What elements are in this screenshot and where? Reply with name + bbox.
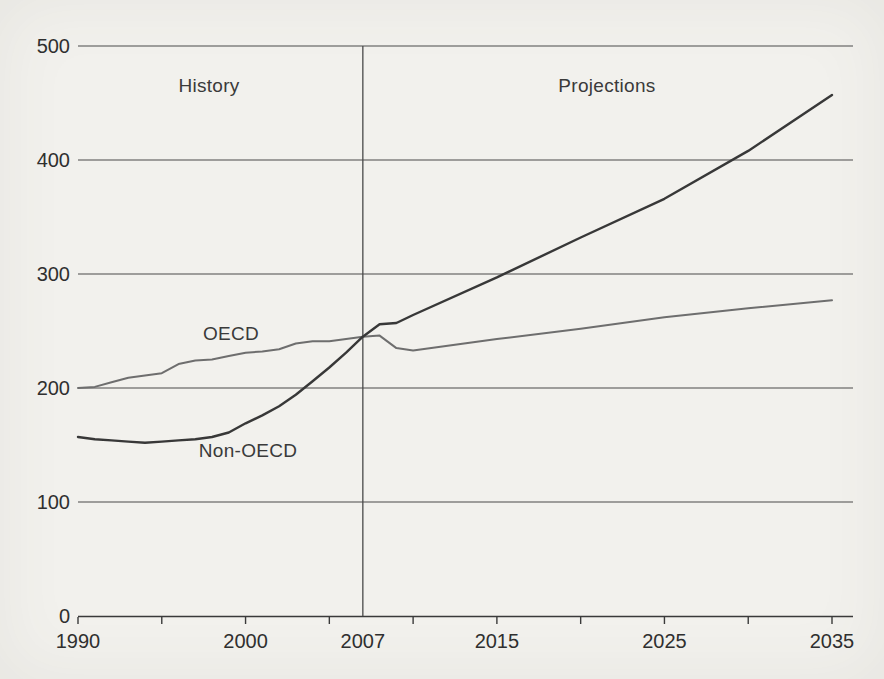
y-tick-label-0: 0 <box>59 605 70 627</box>
y-tick-label-100: 100 <box>37 491 70 513</box>
x-tick-label-2025: 2025 <box>642 630 687 652</box>
y-tick-label-400: 400 <box>37 149 70 171</box>
y-tick-label-500: 500 <box>37 35 70 57</box>
non-oecd-series-label: Non-OECD <box>199 440 297 462</box>
series-line-oecd <box>78 300 832 388</box>
y-tick-label-200: 200 <box>37 377 70 399</box>
x-tick-label-2035: 2035 <box>810 630 855 652</box>
oecd-series-label: OECD <box>203 323 259 345</box>
x-tick-label-2007: 2007 <box>341 630 386 652</box>
energy-consumption-chart: 0100200300400500199020002007201520252035 <box>0 0 884 679</box>
scanned-figure-page: 0100200300400500199020002007201520252035… <box>0 0 884 679</box>
series-line-non-oecd <box>78 95 832 443</box>
y-tick-label-300: 300 <box>37 263 70 285</box>
x-tick-label-1990: 1990 <box>56 630 101 652</box>
x-tick-label-2000: 2000 <box>223 630 268 652</box>
x-tick-label-2015: 2015 <box>475 630 520 652</box>
projections-region-label: Projections <box>558 75 655 97</box>
history-region-label: History <box>178 75 239 97</box>
